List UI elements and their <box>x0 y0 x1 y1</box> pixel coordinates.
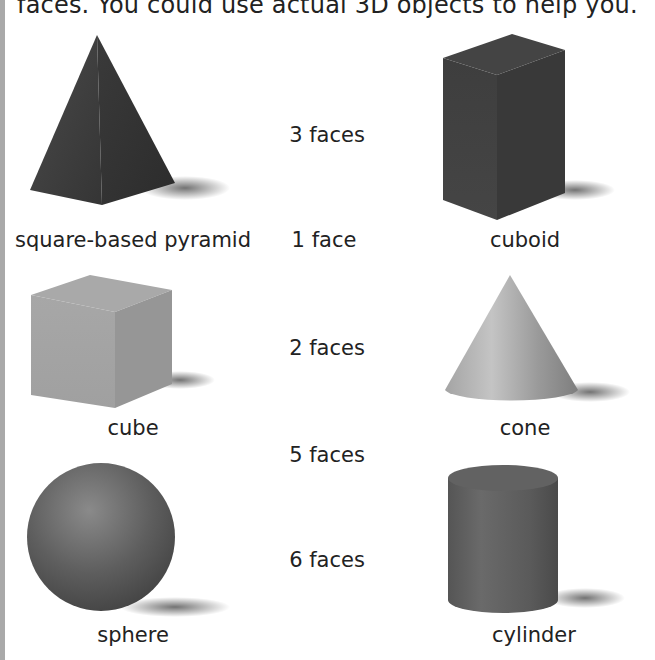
face-count-option: 6 faces <box>289 548 365 572</box>
label-cuboid: cuboid <box>490 228 560 252</box>
face-count-option: 1 face <box>292 228 357 252</box>
face-count-option: 2 faces <box>289 336 365 360</box>
cylinder-shape <box>448 465 625 613</box>
label-sphere: sphere <box>97 623 169 647</box>
face-count-option: 5 faces <box>289 443 365 467</box>
label-cone: cone <box>500 416 551 440</box>
square-based-pyramid-shape <box>30 35 230 205</box>
face-count-option: 3 faces <box>289 123 365 147</box>
label-cylinder: cylinder <box>492 623 576 647</box>
cone-shape <box>445 275 630 402</box>
sphere-shape <box>27 463 230 617</box>
cuboid-shape <box>443 34 615 220</box>
label-square-based-pyramid: square-based pyramid <box>15 228 251 252</box>
label-cube: cube <box>107 416 158 440</box>
cube-shape <box>31 275 215 408</box>
